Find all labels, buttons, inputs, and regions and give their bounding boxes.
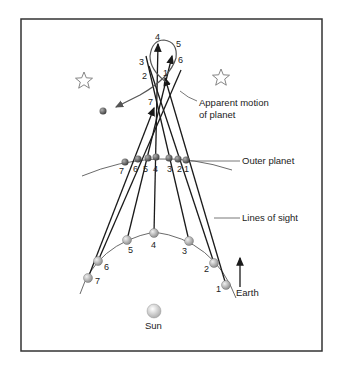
label-apparent-motion-2: of planet [199,109,236,120]
svg-text:4: 4 [153,164,158,174]
svg-text:1: 1 [184,164,189,174]
sun [147,304,161,318]
svg-text:2: 2 [142,71,147,81]
label-apparent-motion-1: Apparent motion [199,97,269,108]
svg-text:7: 7 [148,97,153,107]
svg-text:6: 6 [133,164,138,174]
leader-apparent-motion [180,91,197,101]
star-icon-left [76,72,93,88]
svg-text:5: 5 [143,164,148,174]
svg-text:3: 3 [139,57,144,67]
apparent-planet [100,108,107,115]
svg-text:6: 6 [104,262,109,272]
svg-text:1: 1 [216,284,221,294]
svg-text:1: 1 [163,68,168,78]
label-lines-of-sight: Lines of sight [242,212,298,223]
svg-text:6: 6 [178,55,183,65]
svg-text:2: 2 [204,264,209,274]
retrograde-motion-diagram: 1 2 3 4 5 6 7 1 2 3 4 5 6 7 1 2 3 4 5 6 … [0,0,339,365]
label-sun: Sun [145,320,162,331]
svg-text:3: 3 [167,164,172,174]
svg-text:7: 7 [95,276,100,286]
svg-text:3: 3 [182,246,187,256]
svg-text:5: 5 [128,245,133,255]
svg-text:4: 4 [155,32,160,42]
label-outer-planet: Outer planet [242,155,295,166]
svg-text:7: 7 [119,166,124,176]
svg-text:5: 5 [176,39,181,49]
apparent-position-numbers: 1 2 3 4 5 6 7 [139,32,183,107]
svg-text:4: 4 [151,240,156,250]
svg-text:2: 2 [177,164,182,174]
star-icon-right [213,69,230,85]
earth-balls [84,229,231,290]
label-earth: Earth [236,287,259,298]
